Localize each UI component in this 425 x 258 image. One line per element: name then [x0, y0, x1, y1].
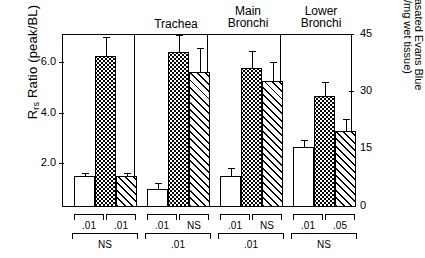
sig-label-g1-lower: .01	[145, 239, 211, 250]
error-bar-g3-s0	[304, 140, 305, 148]
error-cap-g2-s1	[249, 51, 256, 52]
error-cap-g0-s0	[82, 173, 89, 174]
error-bar-g2-s2	[273, 62, 274, 81]
group-label-trachea: Trachea	[140, 18, 212, 30]
y-axis-right-title-line2: (ng/mg wet tissue)	[402, 0, 414, 74]
error-cap-g3-s1	[322, 82, 329, 83]
sig-label-g1-right: NS	[179, 220, 209, 231]
bar-g0-s0	[74, 176, 95, 207]
error-cap-g3-s0	[301, 140, 308, 141]
y-tick-right-15: 15	[360, 141, 394, 153]
error-cap-g0-s2	[124, 173, 131, 174]
y-tick-left-6: 6.0	[22, 55, 56, 67]
y-axis-right-title: Extravasated Evans Blue (ng/mg wet tissu…	[402, 0, 424, 124]
y-axis-left-title: Rrs Ratio (peak/BL)	[25, 0, 41, 147]
tickmark-left-6	[59, 62, 64, 63]
bar-g2-s0	[220, 176, 241, 207]
bar-g2-s1	[241, 68, 262, 207]
bar-g2-s2	[262, 81, 283, 207]
y-tick-right-30: 30	[360, 84, 394, 96]
bar-g3-s1	[314, 96, 335, 207]
error-bar-g1-s1	[179, 35, 180, 52]
sig-label-g0-right: .01	[106, 220, 136, 231]
tickmark-left-4	[59, 113, 64, 114]
tickmark-right-45	[349, 34, 354, 35]
error-cap-g1-s2	[197, 48, 204, 49]
error-cap-g0-s1	[103, 37, 110, 38]
error-bar-g2-s0	[231, 168, 232, 177]
sig-label-g3-lower: NS	[291, 239, 357, 250]
bar-g0-s1	[95, 56, 116, 207]
error-cap-g3-s2	[343, 119, 350, 120]
error-bar-g3-s2	[346, 119, 347, 130]
group-label-main-bronchi-line2: Bronchi	[228, 16, 269, 30]
sig-label-g2-left: .01	[220, 220, 250, 231]
group-label-trachea-line1: Trachea	[154, 17, 198, 31]
bar-g3-s0	[293, 147, 314, 207]
y-tick-right-45: 45	[360, 27, 394, 39]
y-tick-left-2: 2.0	[22, 156, 56, 168]
y-tick-left-4: 4.0	[22, 106, 56, 118]
y-axis-right-title-line1: Extravasated Evans Blue	[413, 0, 425, 90]
significance-annotations: .01 .01 NS .01 NS .01 .01 NS .01 .01 .05…	[62, 207, 352, 258]
error-cap-g1-s0	[155, 183, 162, 184]
error-cap-g2-s0	[228, 168, 235, 169]
error-bar-g2-s1	[252, 51, 253, 69]
tickmark-left-2	[59, 163, 64, 164]
error-cap-g1-s1	[176, 35, 183, 36]
error-bar-g1-s2	[200, 48, 201, 72]
sig-label-g2-lower: .01	[218, 239, 284, 250]
bar-g3-s2	[335, 131, 356, 207]
sig-label-g3-right: .05	[325, 220, 355, 231]
group-label-lower-bronchi: Lower Bronchi	[285, 5, 357, 29]
y-axis-left-title-tail: Ratio (peak/BL)	[25, 5, 40, 102]
bar-g0-s2	[116, 176, 137, 207]
sig-label-g0-left: .01	[74, 220, 104, 231]
bar-g1-s2	[189, 72, 210, 207]
error-bar-g0-s1	[106, 37, 107, 56]
group-label-lower-bronchi-line2: Bronchi	[301, 16, 342, 30]
bar-g1-s1	[168, 52, 189, 207]
y-axis-left-spine	[62, 34, 63, 207]
bar-g1-s0	[147, 189, 168, 207]
sig-label-g1-left: .01	[147, 220, 177, 231]
plot-area	[62, 34, 352, 207]
error-cap-g2-s2	[270, 62, 277, 63]
sig-label-g0-lower: NS	[72, 239, 138, 250]
error-bar-g3-s1	[325, 82, 326, 96]
sig-label-g3-left: .01	[293, 220, 323, 231]
group-label-main-bronchi: Main Bronchi	[212, 5, 284, 29]
tickmark-right-30	[349, 91, 354, 92]
y-tick-right-0: 0	[360, 199, 394, 211]
sig-label-g2-right: NS	[252, 220, 282, 231]
